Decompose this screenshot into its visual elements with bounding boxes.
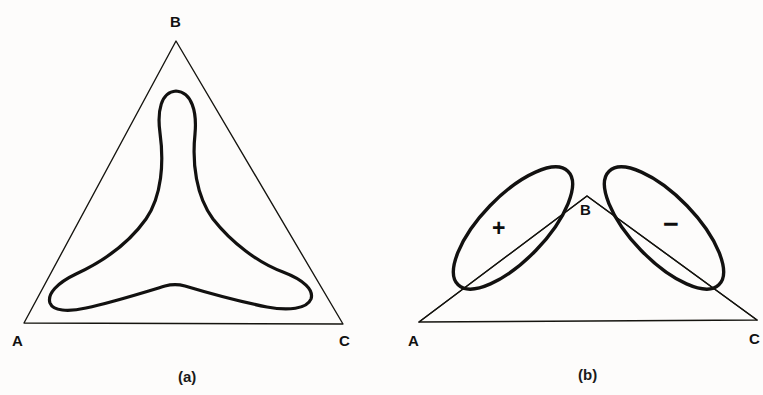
- vertex-label-b-right: C: [749, 331, 760, 346]
- region-sign-plus: +: [492, 217, 505, 240]
- vertex-label-b-top: B: [580, 202, 591, 217]
- vertex-label-a-left: A: [12, 333, 23, 348]
- trefoil-curve: [49, 91, 311, 310]
- left-lobe-path: [435, 149, 591, 307]
- left-lobe-ellipse: [435, 149, 591, 307]
- vertex-label-a-right: C: [339, 333, 350, 348]
- vertex-label-a-top: B: [170, 14, 181, 29]
- triangle-edges-a: [24, 41, 343, 324]
- trefoil-path: [49, 91, 311, 310]
- panel-caption-b: (b): [578, 367, 597, 382]
- panel-a: A B C (a): [0, 0, 381, 395]
- panel-a-graphic: [0, 0, 381, 395]
- panel-caption-a: (a): [178, 369, 196, 384]
- panel-b: A B C + − (b): [381, 0, 763, 395]
- vertex-label-b-left: A: [408, 333, 419, 348]
- triangle-outline-a: [24, 41, 343, 324]
- panel-b-graphic: [381, 0, 763, 395]
- figure-root: A B C (a) A B C + −: [0, 0, 763, 395]
- region-sign-minus: −: [663, 211, 679, 238]
